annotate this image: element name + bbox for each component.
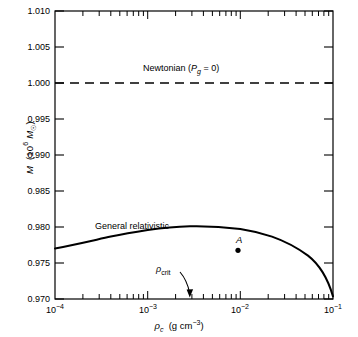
y-axis-ticks-right — [324, 11, 333, 299]
y-axis-units-exponent: 6 — [22, 142, 29, 146]
y-axis-symbol: M — [24, 166, 35, 174]
x-axis-minor-ticks-top — [83, 11, 329, 19]
sun-symbol-icon: ☉ — [30, 125, 37, 131]
plot-svg — [0, 0, 358, 337]
rho-crit-subscript: crit — [161, 269, 170, 276]
point-a-marker[interactable] — [235, 248, 240, 253]
newtonian-paren-close: ) — [216, 63, 219, 73]
x-tick-exponent: −1 — [334, 303, 342, 310]
rho-crit-annotation: ρcrit — [156, 264, 171, 276]
y-tick-label-0980: 0.980 — [4, 222, 50, 232]
x-tick-label-1e-3: 10−3 — [128, 303, 168, 315]
newtonian-text: Newtonian — [143, 63, 186, 73]
y-axis-units-prefix: (10 — [24, 146, 35, 160]
y-tick-label-1005: 1.005 — [4, 42, 50, 52]
x-tick-mantissa: 10 — [46, 305, 56, 315]
x-tick-mantissa: 10 — [231, 305, 241, 315]
newtonian-annotation: Newtonian (Pg = 0) — [143, 63, 219, 75]
x-axis-subscript: c — [160, 326, 164, 333]
y-tick-label-1000: 1.000 — [4, 78, 50, 88]
x-tick-exponent: −3 — [149, 303, 157, 310]
x-tick-exponent: −4 — [56, 303, 64, 310]
figure-plot-mass-vs-central-density: 1.010 1.005 1.000 0.995 0.990 0.985 0.98… — [0, 0, 358, 337]
y-axis-units-suffix: ) — [24, 121, 35, 124]
y-axis-units-mass: M — [24, 131, 35, 139]
general-relativistic-curve — [55, 226, 333, 296]
x-axis-minor-ticks-bottom — [83, 291, 329, 299]
general-relativistic-annotation: General relativistic — [95, 221, 169, 231]
y-axis-title: M (106 M☉) — [22, 88, 37, 208]
plot-frame — [55, 11, 333, 299]
newtonian-equation: = 0 — [203, 63, 216, 73]
newtonian-pressure-subscript: g — [197, 68, 201, 75]
y-axis-ticks-left — [55, 11, 64, 299]
x-axis-title: ρc (g cm−3) — [0, 319, 358, 333]
x-tick-label-1e-1: 10−1 — [313, 303, 353, 315]
x-axis-units-close: ) — [200, 320, 203, 331]
x-tick-mantissa: 10 — [139, 305, 149, 315]
x-tick-mantissa: 10 — [324, 305, 334, 315]
y-tick-label-0975: 0.975 — [4, 258, 50, 268]
point-a-annotation: A — [236, 234, 242, 245]
x-axis-units: (g cm — [169, 320, 193, 331]
x-tick-label-1e-4: 10−4 — [35, 303, 75, 315]
x-tick-label-1e-2: 10−2 — [220, 303, 260, 315]
x-tick-exponent: −2 — [241, 303, 249, 310]
y-tick-label-1010: 1.010 — [4, 6, 50, 16]
